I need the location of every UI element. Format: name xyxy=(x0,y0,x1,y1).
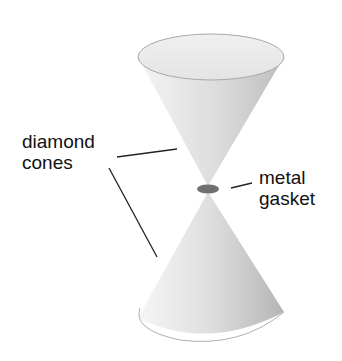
label-line-2: cones xyxy=(22,152,95,173)
leader-line-gasket xyxy=(231,183,252,188)
diamond-cones-label: diamond cones xyxy=(22,131,95,173)
lower-diamond-cone xyxy=(138,192,284,341)
upper-diamond-cone xyxy=(138,34,284,186)
label-line-2: gasket xyxy=(259,188,315,209)
leader-line-upper-cone xyxy=(117,149,177,157)
leader-line-lower-cone xyxy=(109,168,157,257)
label-line-1: metal xyxy=(259,167,315,188)
metal-gasket-label: metal gasket xyxy=(259,167,315,209)
diamond-anvil-cell-diagram: diamond cones metal gasket xyxy=(0,0,342,361)
label-line-1: diamond xyxy=(22,131,95,152)
metal-gasket xyxy=(197,185,219,194)
